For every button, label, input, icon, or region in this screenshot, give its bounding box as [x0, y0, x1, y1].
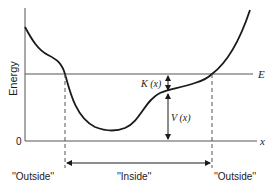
potential-label: V (x) [171, 112, 191, 124]
origin-label: 0 [16, 136, 22, 147]
x-axis-label: x [259, 135, 265, 147]
potential-energy-diagram: Energy 0 x E K (x) V (x) ''Outside'' ''I… [0, 0, 278, 194]
y-axis-label: Energy [7, 61, 19, 96]
region-left-label: ''Outside'' [12, 171, 54, 182]
region-middle-label: ''Inside'' [117, 171, 151, 182]
energy-line-label: E [257, 68, 265, 80]
potential-curve [25, 10, 250, 131]
kinetic-label: K (x) [140, 78, 162, 90]
region-right-label: ''Outside'' [214, 171, 256, 182]
